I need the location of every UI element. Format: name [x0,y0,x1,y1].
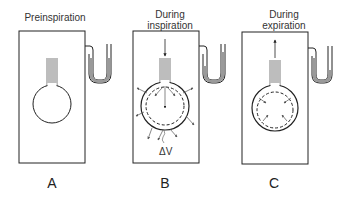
panel-c [242,32,332,164]
panel-a-label: A [42,175,62,191]
lung-model-diagram [0,0,351,199]
manometer-c [308,46,332,83]
lung-balloon-c-deflating [252,85,298,131]
manometer-b [199,44,225,83]
delta-v-label: ΔV [159,146,172,157]
panel-c-label: C [264,175,284,191]
manometer-a [85,44,111,83]
delta-v-leader [162,130,165,143]
panel-b-label: B [155,175,175,191]
lung-balloon-a [33,85,71,123]
panel-b [133,31,225,163]
panel-a [19,31,111,163]
trachea-a [47,58,57,86]
